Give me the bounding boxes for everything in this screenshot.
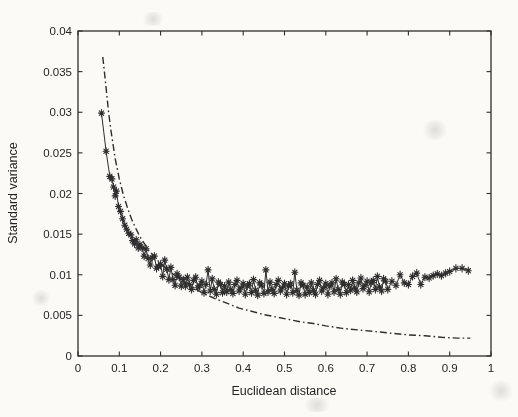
x-tick-label: 0.3: [194, 362, 210, 374]
y-tick-label: 0.01: [50, 269, 72, 281]
x-tick-label: 0.5: [277, 362, 293, 374]
x-tick-label: 0: [75, 362, 81, 374]
y-tick-label: 0.04: [50, 25, 73, 37]
y-axis-title: Standard variance: [6, 142, 20, 244]
x-tick-label: 0.7: [359, 362, 375, 374]
x-tick-label: 0.4: [235, 362, 252, 374]
y-tick-label: 0.02: [50, 188, 72, 200]
x-tick-label: 0.8: [400, 362, 416, 374]
x-tick-label: 0.2: [153, 362, 169, 374]
y-tick-label: 0.035: [43, 66, 72, 78]
data-point-markers: [99, 110, 472, 299]
plot-content: 00.10.20.30.40.50.60.70.80.9100.0050.010…: [43, 25, 494, 374]
y-tick-label: 0.025: [43, 147, 72, 159]
scanned-figure-page: 00.10.20.30.40.50.60.70.80.9100.0050.010…: [0, 0, 518, 417]
x-tick-label: 0.1: [111, 362, 127, 374]
y-tick-label: 0.03: [50, 106, 72, 118]
variance-vs-distance-chart: 00.10.20.30.40.50.60.70.80.9100.0050.010…: [0, 0, 518, 417]
y-tick-label: 0: [66, 350, 72, 362]
x-axis-title: Euclidean distance: [232, 384, 337, 398]
x-tick-label: 0.6: [318, 362, 334, 374]
y-tick-label: 0.015: [43, 228, 72, 240]
x-tick-label: 0.9: [442, 362, 458, 374]
x-tick-label: 1: [488, 362, 494, 374]
plot-border: [78, 31, 491, 356]
plot-canvas: 00.10.20.30.40.50.60.70.80.9100.0050.010…: [0, 0, 518, 417]
y-tick-label: 0.005: [43, 309, 72, 321]
